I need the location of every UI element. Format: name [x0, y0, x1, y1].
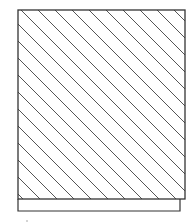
base-strip	[18, 199, 180, 211]
diagonal-hatch-lines	[0, 10, 192, 223]
hatched-panel-diagram	[0, 0, 192, 223]
stray-mark	[26, 220, 27, 221]
panel-border	[18, 10, 185, 199]
